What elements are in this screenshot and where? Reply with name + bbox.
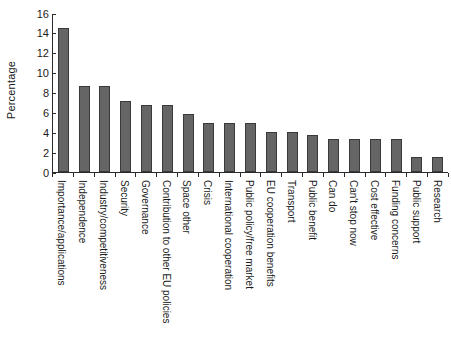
bar-slot	[282, 14, 303, 172]
bar-slot	[365, 14, 386, 172]
x-axis-tick-label: Security	[119, 178, 130, 216]
y-axis-tick-label: 14	[37, 28, 52, 39]
x-axis-label-rotated: Governance	[140, 178, 152, 338]
x-axis-tick-mark	[323, 173, 324, 177]
y-axis-tick-label: 0	[43, 167, 52, 178]
bar-slot	[74, 14, 95, 172]
x-axis-tick-label: Industry/competitiveness	[99, 178, 110, 290]
x-axis-label-rotated: Funding concerns	[390, 178, 402, 338]
x-axis-tick-mark	[52, 173, 53, 177]
bar-chart: Percentage 0246810121416 Importance/appl…	[0, 0, 451, 341]
bar	[141, 105, 152, 172]
bar	[203, 123, 214, 172]
x-axis-tick-label: EU cooperation benefits	[265, 178, 276, 287]
bar	[245, 123, 256, 172]
bar-slot	[136, 14, 157, 172]
x-axis-tick-mark	[344, 173, 345, 177]
x-axis-label-rotated: Can't stop now	[348, 178, 360, 338]
x-axis-tick-mark	[198, 173, 199, 177]
x-axis-label-rotated: Public benefit	[307, 178, 319, 338]
y-axis-tick-label: 2	[43, 147, 52, 158]
x-axis-label-rotated: Independence	[77, 178, 89, 338]
bar	[432, 157, 443, 172]
bar	[266, 132, 277, 172]
y-axis-title: Percentage	[0, 0, 22, 180]
x-axis-label-rotated: Public policy/free market	[244, 178, 256, 338]
bar-slot	[427, 14, 448, 172]
bar	[162, 105, 173, 172]
x-axis-tick-mark	[219, 173, 220, 177]
y-axis-tick-label: 8	[43, 88, 52, 99]
x-axis-tick-label: Public policy/free market	[245, 178, 256, 289]
x-axis-tick-mark	[406, 173, 407, 177]
x-axis-label-rotated: Industry/competitiveness	[98, 178, 110, 338]
x-axis-tick-mark	[427, 173, 428, 177]
x-axis-tick-mark	[448, 173, 449, 177]
x-axis-labels: Importance/applicationsIndependenceIndus…	[52, 178, 448, 338]
plot-area	[52, 14, 448, 173]
bar-slot	[178, 14, 199, 172]
x-axis-tick-mark	[94, 173, 95, 177]
x-axis-tick-mark	[135, 173, 136, 177]
bar	[120, 101, 131, 172]
x-axis-tick-mark	[240, 173, 241, 177]
bar-slot	[157, 14, 178, 172]
x-axis-tick-mark	[281, 173, 282, 177]
x-axis-tick-label: Transport	[286, 178, 297, 222]
bar	[58, 28, 69, 172]
x-axis-label-rotated: Cost effective	[369, 178, 381, 338]
bar	[391, 139, 402, 172]
x-axis-tick-label: Contribution to other EU policies	[161, 178, 172, 323]
bar	[79, 86, 90, 172]
x-axis-label-rotated: Space other	[181, 178, 193, 338]
x-axis-label-rotated: Crisis	[202, 178, 214, 338]
x-axis-tick-mark	[302, 173, 303, 177]
x-axis-tick-label: Funding concerns	[390, 178, 401, 260]
x-axis-tick-label: Public benefit	[307, 178, 318, 240]
y-axis-tick-label: 10	[37, 68, 52, 79]
x-axis-label-rotated: Research	[432, 178, 444, 338]
bar-slot	[115, 14, 136, 172]
x-axis-tick-mark	[73, 173, 74, 177]
x-axis-tick-mark	[260, 173, 261, 177]
bar	[349, 139, 360, 172]
bar-slot	[407, 14, 428, 172]
bar-slot	[386, 14, 407, 172]
x-axis-label-rotated: Contribution to other EU policies	[161, 178, 173, 338]
y-axis-title-label: Percentage	[5, 61, 17, 119]
x-axis-tick-label: Crisis	[203, 178, 214, 205]
bar-slot	[261, 14, 282, 172]
x-axis-tick-label: Can do	[328, 178, 339, 212]
x-axis-tick-label: Cost effective	[370, 178, 381, 240]
bar-slot	[240, 14, 261, 172]
x-axis-tick-mark	[156, 173, 157, 177]
x-axis-tick-label: Can't stop now	[349, 178, 360, 246]
x-axis-tick-mark	[115, 173, 116, 177]
bar	[370, 139, 381, 172]
bar-slot	[95, 14, 116, 172]
x-axis-label-rotated: EU cooperation benefits	[265, 178, 277, 338]
x-axis-tick-mark	[385, 173, 386, 177]
x-axis-label-rotated: Importance/applications	[56, 178, 68, 338]
x-axis-tick-mark	[177, 173, 178, 177]
y-axis-tick-label: 16	[37, 8, 52, 19]
bar-slot	[219, 14, 240, 172]
bar	[307, 135, 318, 172]
bar-series	[53, 14, 448, 172]
bar-slot	[303, 14, 324, 172]
x-axis-tick-mark	[365, 173, 366, 177]
y-axis-tick-label: 4	[43, 127, 52, 138]
x-axis-tick-label: Public support	[411, 178, 422, 243]
x-axis-tick-label: Space other	[182, 178, 193, 234]
x-axis-label-rotated: Security	[119, 178, 131, 338]
bar	[99, 86, 110, 172]
x-axis-tick-label: Independence	[78, 178, 89, 243]
x-axis-tick-label: Governance	[140, 178, 151, 234]
x-axis-label-rotated: Public support	[411, 178, 423, 338]
x-axis-label-rotated: Transport	[286, 178, 298, 338]
bar-slot	[323, 14, 344, 172]
x-axis-tick-label: International cooperation	[224, 178, 235, 290]
y-axis: 0246810121416	[22, 14, 52, 173]
bar	[411, 157, 422, 172]
bar	[287, 132, 298, 172]
